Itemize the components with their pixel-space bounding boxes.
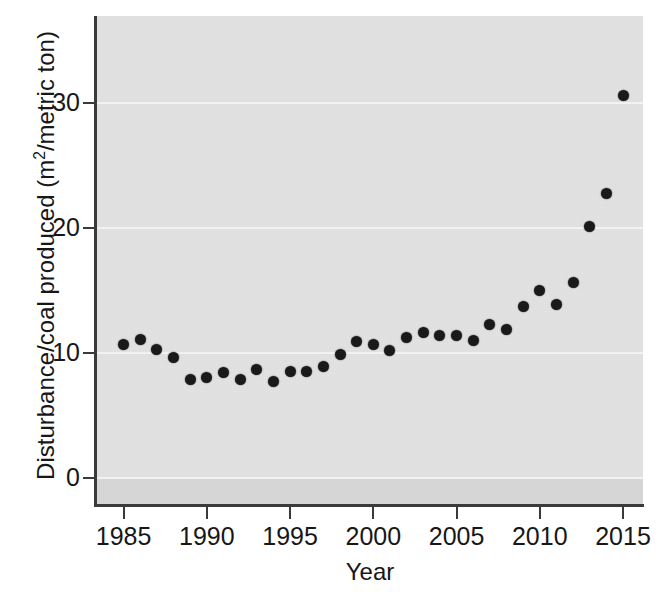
data-point — [368, 339, 379, 350]
data-point — [318, 361, 329, 372]
x-tick-label-1985: 1985 — [79, 522, 169, 550]
data-point — [185, 374, 196, 385]
gridline-y-20 — [97, 227, 643, 229]
data-point — [235, 374, 246, 385]
gridline-y-30 — [97, 102, 643, 104]
x-tick-mark-2005 — [456, 507, 458, 519]
y-tick-mark-10 — [83, 352, 95, 354]
data-point — [285, 366, 296, 377]
data-point — [384, 345, 395, 356]
data-point — [468, 335, 479, 346]
data-point — [451, 330, 462, 341]
scatter-chart-figure: 0102030 1985199019952000200520102015 Dis… — [0, 0, 667, 603]
plot-area — [97, 16, 643, 505]
x-tick-mark-1990 — [206, 507, 208, 519]
gridline-y-10 — [97, 352, 643, 354]
data-point — [351, 336, 362, 347]
data-point — [168, 352, 179, 363]
y-axis-title: Disturbance/coal produced (m2/metric ton… — [31, 6, 60, 506]
data-point — [434, 330, 445, 341]
x-tick-mark-2015 — [622, 507, 624, 519]
data-point — [335, 349, 346, 360]
y-tick-mark-30 — [83, 102, 95, 104]
data-point — [484, 319, 495, 330]
data-point — [534, 285, 545, 296]
y-axis-line — [94, 16, 97, 506]
data-point — [518, 301, 529, 312]
data-point — [151, 344, 162, 355]
data-point — [601, 188, 612, 199]
data-point — [118, 339, 129, 350]
y-tick-mark-0 — [83, 477, 95, 479]
data-point — [251, 364, 262, 375]
gridline-y-0 — [97, 477, 643, 479]
x-tick-mark-2010 — [539, 507, 541, 519]
x-tick-mark-2000 — [372, 507, 374, 519]
x-tick-label-1990: 1990 — [162, 522, 252, 550]
x-axis-title: Year — [97, 558, 643, 586]
data-point — [301, 366, 312, 377]
x-tick-label-2015: 2015 — [578, 522, 667, 550]
data-point — [618, 90, 629, 101]
data-point — [568, 277, 579, 288]
data-point — [268, 376, 279, 387]
x-tick-label-2010: 2010 — [495, 522, 585, 550]
x-tick-label-2000: 2000 — [328, 522, 418, 550]
data-point — [551, 299, 562, 310]
below-zero-band — [97, 478, 643, 505]
data-point — [584, 221, 595, 232]
y-tick-mark-20 — [83, 227, 95, 229]
x-tick-mark-1995 — [289, 507, 291, 519]
x-tick-mark-1985 — [123, 507, 125, 519]
data-point — [218, 367, 229, 378]
data-point — [201, 372, 212, 383]
data-point — [418, 327, 429, 338]
x-axis-line — [94, 504, 644, 507]
data-point — [401, 332, 412, 343]
data-point — [501, 324, 512, 335]
x-tick-label-2005: 2005 — [412, 522, 502, 550]
x-tick-label-1995: 1995 — [245, 522, 335, 550]
data-point — [135, 334, 146, 345]
